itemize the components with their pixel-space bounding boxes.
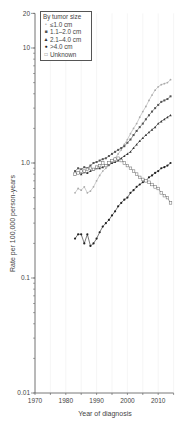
circle-marker-icon: ●	[43, 43, 49, 51]
legend-item-unknown: □ Unknown	[43, 51, 89, 59]
legend-item-le1cm: • ≤1.0 cm	[43, 21, 89, 29]
dot-marker-icon: •	[43, 21, 49, 29]
x-axis-label: Year of diagnosis	[35, 410, 175, 417]
svg-text:1980: 1980	[59, 397, 74, 404]
legend-title: By tumor size	[43, 13, 89, 21]
svg-text:1990: 1990	[89, 397, 104, 404]
data-series	[74, 79, 172, 247]
legend-item-gt4cm: ● >4.0 cm	[43, 43, 89, 51]
legend-item-1to2cm: ■ 1.1–2.0 cm	[43, 28, 89, 36]
svg-text:20: 20	[23, 10, 31, 17]
legend-item-2to4cm: ▲ 2.1–4.0 cm	[43, 36, 89, 44]
axes: 197019801990200020100.010.11.01020	[17, 10, 173, 404]
incidence-chart: 197019801990200020100.010.11.01020	[0, 0, 183, 426]
svg-text:1.0: 1.0	[21, 159, 30, 166]
svg-text:2010: 2010	[151, 397, 166, 404]
svg-text:1970: 1970	[28, 397, 43, 404]
vertical-gridlines	[35, 13, 174, 393]
svg-text:10: 10	[23, 44, 31, 51]
svg-text:2000: 2000	[120, 397, 135, 404]
y-axis-label: Rate per 100,000 person-years	[9, 174, 16, 274]
legend: By tumor size • ≤1.0 cm ■ 1.1–2.0 cm ▲ 2…	[40, 11, 92, 61]
square-marker-icon: ■	[43, 28, 49, 36]
triangle-marker-icon: ▲	[43, 36, 49, 44]
open-square-marker-icon: □	[43, 51, 49, 59]
svg-text:0.1: 0.1	[21, 274, 30, 281]
svg-text:0.01: 0.01	[17, 389, 30, 396]
